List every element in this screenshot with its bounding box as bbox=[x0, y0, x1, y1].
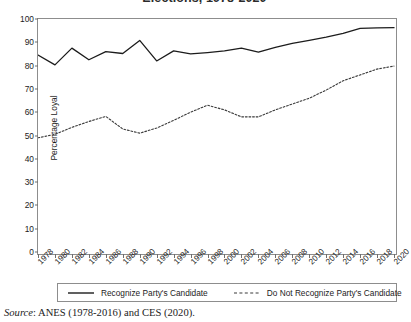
series-line-1 bbox=[38, 66, 394, 138]
legend-swatch-solid-icon bbox=[68, 289, 94, 297]
y-tick-mark-40 bbox=[35, 158, 38, 159]
y-tick-label-70: 70 bbox=[25, 84, 34, 94]
y-tick-label-60: 60 bbox=[25, 107, 34, 117]
y-tick-mark-10 bbox=[35, 228, 38, 229]
series-line-0 bbox=[38, 28, 394, 65]
y-tick-label-90: 90 bbox=[25, 37, 34, 47]
y-tick-mark-100 bbox=[35, 19, 38, 20]
y-tick-label-80: 80 bbox=[25, 61, 34, 71]
legend-label-recognize: Recognize Party's Candidate bbox=[101, 288, 208, 298]
y-tick-label-0: 0 bbox=[29, 247, 34, 257]
legend-label-do-not-recognize: Do Not Recognize Party's Candidate bbox=[267, 288, 402, 298]
chart-title: Elections, 1978-2020 bbox=[0, 0, 409, 5]
y-tick-mark-0 bbox=[35, 252, 38, 253]
y-tick-mark-70 bbox=[35, 88, 38, 89]
y-tick-mark-50 bbox=[35, 135, 38, 136]
y-tick-label-40: 40 bbox=[25, 154, 34, 164]
source-note: Source: ANES (1978-2016) and CES (2020). bbox=[4, 307, 195, 318]
y-tick-mark-30 bbox=[35, 182, 38, 183]
chart-legend: Recognize Party's Candidate Do Not Recog… bbox=[57, 283, 397, 302]
y-tick-mark-90 bbox=[35, 42, 38, 43]
plot-lines bbox=[38, 19, 396, 254]
y-tick-label-30: 30 bbox=[25, 177, 34, 187]
source-prefix: Source bbox=[4, 307, 33, 318]
legend-entry-do-not-recognize: Do Not Recognize Party's Candidate bbox=[234, 288, 402, 298]
plot-area: Percentage Loyal 01020304050607080901001… bbox=[37, 18, 397, 255]
source-text: : ANES (1978-2016) and CES (2020). bbox=[33, 307, 195, 318]
y-tick-mark-60 bbox=[35, 112, 38, 113]
legend-swatch-dashed-icon bbox=[234, 289, 260, 297]
legend-entry-recognize: Recognize Party's Candidate bbox=[68, 288, 208, 298]
y-tick-mark-80 bbox=[35, 65, 38, 66]
y-tick-label-20: 20 bbox=[25, 200, 34, 210]
y-tick-label-100: 100 bbox=[20, 14, 34, 24]
y-tick-label-10: 10 bbox=[25, 224, 34, 234]
y-tick-mark-20 bbox=[35, 205, 38, 206]
y-tick-label-50: 50 bbox=[25, 131, 34, 141]
